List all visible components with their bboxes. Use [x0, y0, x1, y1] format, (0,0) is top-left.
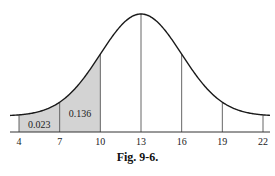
x-tick-label: 16: [177, 136, 187, 147]
x-tick-label: 19: [217, 136, 227, 147]
shaded-region-1: [60, 54, 101, 132]
x-tick-label: 13: [136, 136, 146, 147]
x-tick-labels: 471013161922: [17, 136, 269, 147]
x-tick-label: 10: [95, 136, 105, 147]
x-tick-label: 4: [17, 136, 22, 147]
figure-caption: Fig. 9-6.: [0, 150, 275, 165]
area-label-1: 0.136: [69, 108, 92, 119]
x-tick-label: 22: [258, 136, 268, 147]
normal-curve: [10, 14, 270, 115]
x-tick-label: 7: [57, 136, 62, 147]
area-label-0: 0.023: [28, 119, 51, 130]
